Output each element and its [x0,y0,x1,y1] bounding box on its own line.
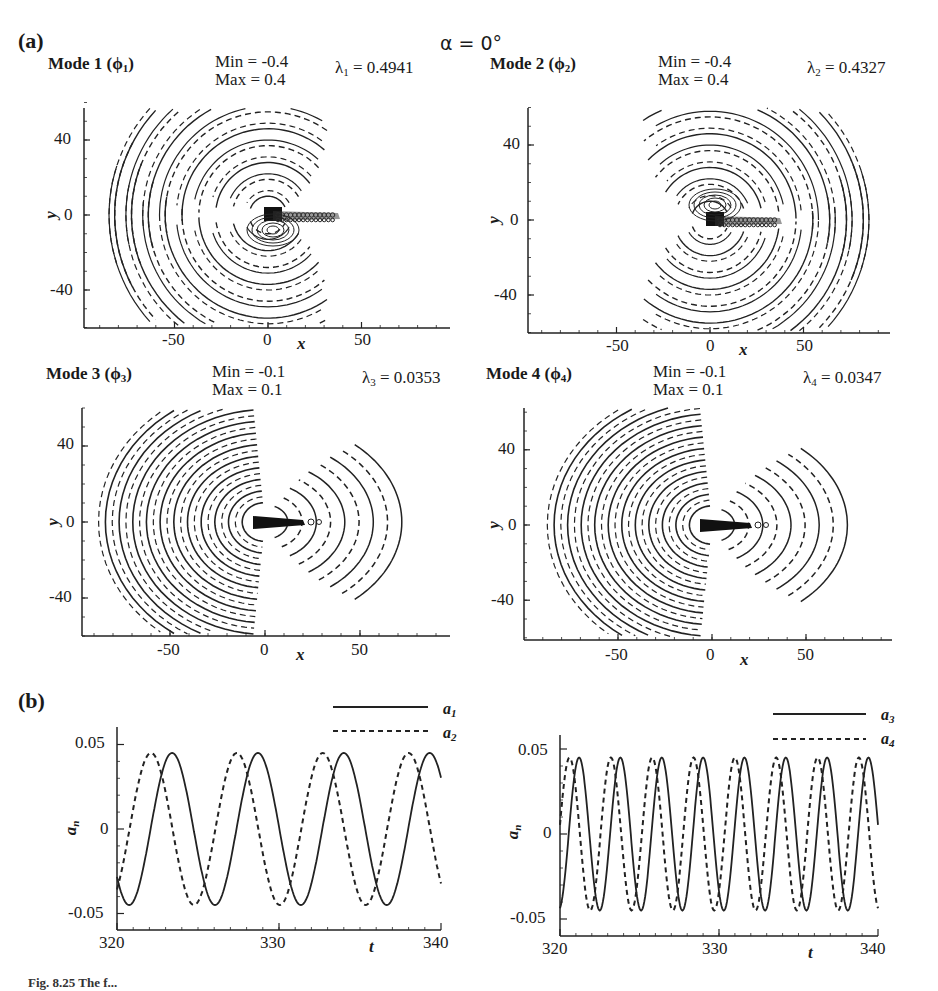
mode-1-upper-arc-dashed [109,108,150,264]
mode-3-downstream-arc [342,451,388,594]
m1-xtick-50: 50 [354,330,371,350]
m2-xtick-50: 50 [796,336,813,356]
ts1-xtick-320: 320 [99,933,125,953]
m1-xlabel: x [297,334,306,354]
m2-ytick-neg40: -40 [494,285,517,305]
mode-4-upstream-arc [602,431,703,618]
ts1-ylabel: an [61,821,81,836]
ts1-xtick-330: 330 [260,933,286,953]
m4-ytick-neg40: -40 [491,590,514,610]
mode-2-upper-arc-dashed [677,179,748,203]
mode-4-upstream-arc [629,454,705,595]
ts2-xlabel: t [808,943,813,963]
m4-xlabel: x [740,650,749,670]
mode-2-upper-arc-dashed [799,109,852,249]
ts1-xlabel: t [369,937,374,957]
mode-1-upper-arc [148,109,211,248]
mode-3-upstream-arc [194,462,258,582]
m1-ytick-neg40: -40 [50,280,73,300]
mode-3-wake-contour [317,520,322,525]
ts2-xtick-330: 330 [702,939,728,959]
mode-2-lower-arc-dashed [828,171,869,327]
mode-2-lower-arc [648,222,796,307]
ts1-xtick-340: 340 [423,933,449,953]
mode-1-near-body-contour [262,223,284,237]
mode-4-downstream-arc [755,475,791,574]
mode-1-upper-arc [182,129,324,221]
mode-4-wake-dense [700,519,752,532]
ts1-ytick-0: 0 [100,819,109,839]
m3-ytick-0: 0 [66,512,75,532]
mode-3-wake-contour [308,519,314,525]
legend-a4: a4 [881,730,895,749]
m3-xtick-neg50: -50 [157,640,180,660]
mode-2-lower-arc-dashed [799,190,852,330]
figure-caption: Fig. 8.25 The f... [28,975,117,991]
mode-4-downstream-arc [801,448,848,601]
m3-ytick-40: 40 [57,434,74,454]
m1-xtick-0: 0 [263,330,272,350]
timeseries-1-series-a1 [117,753,441,905]
m4-xtick-50: 50 [797,645,814,665]
mode-1-lower-arc-dashed [109,166,150,322]
mode-2-lower-arc-dashed [677,237,748,261]
m2-xtick-neg50: -50 [606,336,629,356]
m2-xtick-0: 0 [706,336,715,356]
mode-4-downstream-arc [788,454,833,595]
mode-1-lower-arc-dashed [143,202,206,324]
mode-1-lower-arc [182,209,324,301]
mode-4-upstream-arc [554,409,632,635]
legend-a3: a3 [881,706,895,725]
mode-1-upper-arc-dashed [143,110,200,229]
m3-xlabel: x [296,645,305,665]
mode-3-upstream-arc [181,451,258,594]
m2-ytick-40: 40 [503,134,520,154]
ts2-ylabel: an [503,825,523,840]
ts1-ytick-neg005: -0.05 [68,903,103,923]
ts2-ytick-neg005: -0.05 [510,908,545,928]
ts2-ytick-005: 0.05 [518,740,548,760]
mode-3-upstream-arc [153,427,255,616]
mode-4-downstream-arc [765,468,805,582]
m1-ylabel: y [41,211,61,219]
m3-xtick-50: 50 [351,640,368,660]
m3-ylabel: y [43,518,63,526]
legend-a2: a2 [443,724,457,743]
ts2-xtick-320: 320 [542,939,568,959]
mode-4-wake-contour [764,523,769,528]
m1-xtick-neg50: -50 [162,330,185,350]
mode-1-upper-arc-dashed [230,174,301,198]
mode-2-near-body-contour [704,198,726,212]
m2-ylabel: y [484,216,504,224]
m3-ytick-neg40: -40 [49,587,72,607]
mode-2-upper-arc-dashed [767,108,835,233]
m4-xtick-neg50: -50 [605,645,628,665]
mode-4-wake-contour [755,522,761,528]
mode-2-lower-arc [644,211,813,323]
mode-3-downstream-arc [319,464,359,580]
mode-2-upper-arc [678,184,744,208]
ts2-xtick-340: 340 [860,939,886,959]
legend-a1: a1 [443,700,457,719]
m4-xtick-0: 0 [706,645,715,665]
mode-2-lower-arc [692,226,727,238]
mode-3-wake-dense [253,516,305,529]
m4-ylabel: y [484,521,504,529]
m2-xlabel: x [739,340,748,360]
m1-ytick-0: 0 [64,205,73,225]
mode-2-lower-arc-dashed [660,236,783,295]
mode-4-upstream-arc [642,466,706,584]
m4-ytick-40: 40 [498,439,515,459]
m4-ytick-0: 0 [508,515,517,535]
mode-2-lower-arc [678,232,744,256]
mode-2-upper-arc-dashed [828,113,869,269]
ts2-ytick-0: 0 [543,823,552,843]
mode-1-lower-arc-dashed [126,185,179,325]
mode-3-downstream-arc [355,445,402,600]
timeseries-2-series-a4 [560,758,878,911]
panel-b-label: (b) [18,688,45,714]
m2-ytick-0: 0 [510,210,519,230]
m1-ytick-40: 40 [54,129,71,149]
mode-1-upper-arc [250,196,285,208]
